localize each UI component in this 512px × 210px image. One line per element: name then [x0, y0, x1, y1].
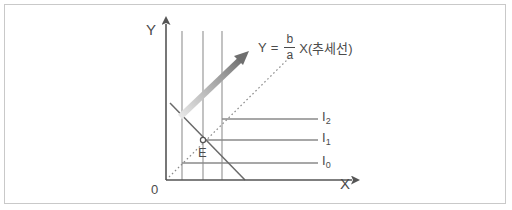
equation-lhs: Y	[258, 40, 267, 55]
diagram-canvas: Y X 0 E I2 I1 I0 Y = b a X(추세선)	[0, 0, 512, 210]
curve-label-i2: I2	[322, 110, 331, 123]
x-axis-label: X	[340, 176, 350, 191]
equilibrium-point-label: E	[198, 146, 207, 159]
y-axis-label: Y	[146, 22, 156, 37]
origin-label: 0	[151, 183, 158, 196]
curve-label-i0: I0	[322, 154, 331, 167]
equation-equals: =	[271, 40, 279, 55]
equation-fraction: b a	[284, 33, 295, 61]
trend-line-equation: Y = b a X(추세선)	[258, 33, 353, 61]
equation-tail: X(추세선)	[299, 38, 352, 57]
curve-label-i0-subscript: 0	[326, 160, 331, 170]
curve-label-i1-subscript: 1	[326, 137, 331, 147]
growth-arrow	[180, 51, 249, 117]
equilibrium-point-marker	[200, 137, 205, 142]
equation-numerator: b	[284, 33, 295, 47]
curve-label-i1: I1	[322, 131, 331, 144]
diagram-graphics	[0, 0, 512, 210]
equation-denominator: a	[284, 48, 295, 62]
curve-label-i2-subscript: 2	[326, 116, 331, 126]
